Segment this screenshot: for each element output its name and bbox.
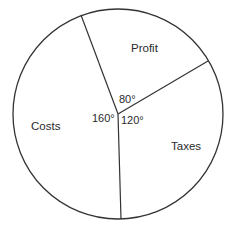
slice-label-taxes: Taxes [171,140,201,152]
angle-label-costs: 160° [92,112,115,124]
slice-label-costs: Costs [31,120,61,132]
angle-label-profit: 80° [119,93,136,105]
slice-label-profit: Profit [131,42,159,54]
pie-chart: Profit Costs Taxes 80° 160° 120° [0,0,237,229]
angle-label-taxes: 120° [121,114,144,126]
